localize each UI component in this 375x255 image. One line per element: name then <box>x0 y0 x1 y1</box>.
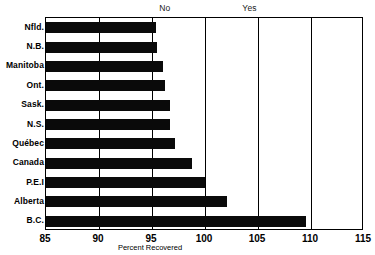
bars-layer <box>46 18 362 229</box>
x-tick-100: 100 <box>196 233 213 244</box>
bar <box>46 61 163 72</box>
bar-row <box>46 154 364 173</box>
category-label-alberta: Alberta <box>0 196 44 206</box>
category-label-ont: Ont. <box>0 80 44 90</box>
bar-row <box>46 192 364 211</box>
category-label-sask: Sask. <box>0 99 44 109</box>
bar <box>46 158 192 169</box>
category-label-ns: N.S. <box>0 119 44 129</box>
category-label-nb: N.B. <box>0 41 44 51</box>
bar-row <box>46 115 364 134</box>
x-axis-title: Percent Recovered <box>118 243 182 252</box>
bar <box>46 216 306 227</box>
bar-row <box>46 95 364 114</box>
x-tick-90: 90 <box>92 233 103 244</box>
bar <box>46 80 165 91</box>
bar-chart: NoYes Nfld.N.B.ManitobaOnt.Sask.N.S.Québ… <box>0 0 375 255</box>
bar-row <box>46 76 364 95</box>
category-label-pei: P.E.I <box>0 177 44 187</box>
bar-row <box>46 18 364 37</box>
annotation-no: No <box>159 3 170 13</box>
bar-row <box>46 57 364 76</box>
category-label-bc: B.C. <box>0 215 44 225</box>
bar <box>46 196 227 207</box>
bar-row <box>46 134 364 153</box>
category-label-qubec: Québec <box>0 138 44 148</box>
bar <box>46 177 205 188</box>
bar-row <box>46 173 364 192</box>
bar-row <box>46 37 364 56</box>
bar-row <box>46 212 364 231</box>
x-tick-85: 85 <box>39 233 50 244</box>
bar <box>46 119 170 130</box>
x-tick-110: 110 <box>302 233 318 244</box>
bar <box>46 42 157 53</box>
bar <box>46 138 175 149</box>
plot-area <box>45 17 363 230</box>
x-tick-105: 105 <box>249 233 266 244</box>
x-tick-115: 115 <box>355 233 371 244</box>
category-label-nfld: Nfld. <box>0 22 44 32</box>
category-label-canada: Canada <box>0 157 44 167</box>
annotation-yes: Yes <box>242 3 256 13</box>
category-label-manitoba: Manitoba <box>0 60 44 70</box>
bar <box>46 22 156 33</box>
bar <box>46 100 170 111</box>
